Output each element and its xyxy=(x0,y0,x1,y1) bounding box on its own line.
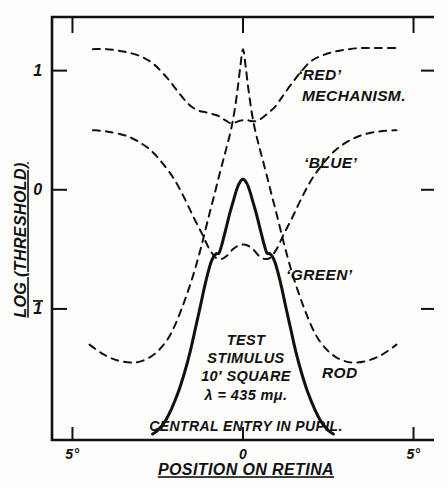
label-blue-mechanism: ‘BLUE’ xyxy=(304,154,357,171)
x-axis-title: POSITION ON RETINA xyxy=(158,461,334,478)
y-tick-label: 0 xyxy=(33,181,42,198)
stimulus-line-4: λ = 435 mμ. xyxy=(204,387,288,403)
y-axis-title: LOG (THRESHOLD) xyxy=(12,162,29,317)
y-tick-label: 1 xyxy=(33,300,42,317)
label-red-mechanism: ‘RED’ xyxy=(298,66,342,83)
figure-container: 1015°05° ‘RED’ MECHANISM. ‘BLUE’ ‘GREEN’… xyxy=(0,0,448,488)
stimulus-line-1: TEST xyxy=(227,332,266,348)
y-tick-label: 1 xyxy=(33,62,42,79)
retina-threshold-chart: 1015°05° ‘RED’ MECHANISM. ‘BLUE’ ‘GREEN’… xyxy=(0,0,448,488)
annotation-layer: ‘RED’ MECHANISM. ‘BLUE’ ‘GREEN’ ROD TEST… xyxy=(149,66,406,434)
x-tick-label: 5° xyxy=(65,446,79,462)
label-green-mechanism: ‘GREEN’ xyxy=(286,266,353,283)
label-red-mechanism-line2: MECHANISM. xyxy=(302,87,406,104)
stimulus-line-2: STIMULUS xyxy=(207,350,284,366)
label-rod-mechanism: ROD xyxy=(322,364,358,381)
curve--blue-mechanism xyxy=(93,130,397,259)
x-tick-label: 5° xyxy=(406,446,420,462)
stimulus-line-3: 10′ SQUARE xyxy=(201,368,292,384)
x-tick-label: 0 xyxy=(239,446,247,462)
central-entry-note: CENTRAL ENTRY IN PUPIL. xyxy=(149,418,343,434)
